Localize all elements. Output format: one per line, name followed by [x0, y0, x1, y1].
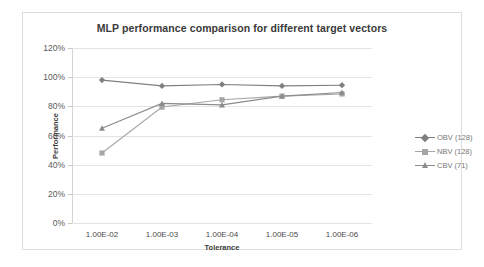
- x-axis-tick-label: 1.00E-06: [326, 230, 358, 239]
- data-point-marker: [339, 82, 345, 88]
- y-axis-tick-label: 120%: [43, 43, 65, 53]
- x-axis-tick-label: 1.00E-05: [266, 230, 298, 239]
- chart-title: MLP performance comparison for different…: [23, 22, 461, 34]
- y-axis-tick-label: 40%: [48, 160, 65, 170]
- data-point-marker: [159, 83, 165, 89]
- legend-marker: [421, 133, 429, 141]
- chart-legend: OBV (128)NBV (128)CBV (71): [415, 131, 484, 173]
- x-axis-tick-label: 1.00E-04: [206, 230, 238, 239]
- legend-item[interactable]: NBV (128): [415, 145, 484, 158]
- data-point-marker: [279, 83, 285, 89]
- y-axis-tick-label: 80%: [48, 101, 65, 111]
- legend-marker: [422, 162, 428, 168]
- legend-label: OBV (128): [435, 133, 472, 142]
- legend-marker: [422, 149, 428, 155]
- x-axis-tick-label: 1.00E-02: [86, 230, 118, 239]
- y-axis-tick-label: 0%: [53, 218, 65, 228]
- y-axis-tick: [68, 223, 72, 224]
- gridline: [72, 223, 372, 224]
- data-point-marker: [219, 97, 224, 102]
- data-point-marker: [219, 81, 225, 87]
- chart-frame: MLP performance comparison for different…: [22, 12, 462, 250]
- x-axis-tick-label: 1.00E-03: [146, 230, 178, 239]
- series-plot: [72, 48, 372, 223]
- data-point-marker: [99, 77, 105, 83]
- plot-area: 0%20%40%60%80%100%120% 1.00E-021.00E-031…: [72, 48, 372, 223]
- data-point-marker: [99, 150, 104, 155]
- legend-key-diamond-icon: [415, 132, 435, 143]
- legend-item[interactable]: OBV (128): [415, 131, 484, 144]
- y-axis-tick-label: 20%: [48, 189, 65, 199]
- y-axis-title: Performance: [51, 113, 60, 159]
- legend-key-triangle-icon: [415, 160, 435, 171]
- legend-label: NBV (128): [435, 147, 472, 156]
- legend-label: CBV (71): [435, 161, 468, 170]
- y-axis-tick-label: 100%: [43, 72, 65, 82]
- legend-key-square-icon: [415, 146, 435, 157]
- x-axis-title: Tolerance: [72, 243, 372, 252]
- legend-item[interactable]: CBV (71): [415, 159, 484, 172]
- data-point-marker: [99, 125, 105, 131]
